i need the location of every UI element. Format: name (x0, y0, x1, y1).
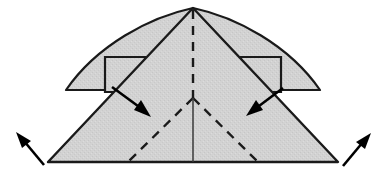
origami-diagram (0, 0, 382, 187)
arrow-outward-right-icon (343, 133, 371, 166)
origami-illustration (0, 0, 382, 187)
arrow-outward-left-icon (16, 132, 44, 165)
